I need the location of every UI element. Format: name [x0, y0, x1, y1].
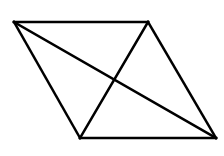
left-edge: [14, 22, 80, 138]
diagram-canvas: [0, 0, 224, 156]
parallelogram-shape: [14, 22, 216, 138]
parallelogram-diagram: [0, 0, 224, 156]
diagonal-tr-bl: [80, 22, 148, 138]
right-edge: [148, 22, 216, 138]
